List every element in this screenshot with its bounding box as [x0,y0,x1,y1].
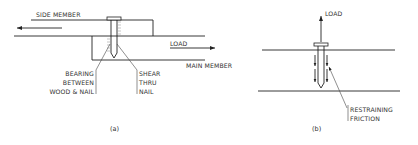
main-member-label: MAIN MEMBER [186,62,233,69]
shear-label-line-3: NAIL [139,88,154,95]
load-label-b: LOAD [325,10,343,17]
nail-a [107,17,121,58]
shear-leader [117,44,137,94]
figure-b: LOAD RESTRAINING FRICTION (b) [258,10,400,133]
caption-a: (a) [110,125,119,133]
friction-label-line-2: FRICTION [350,115,380,122]
friction-arrows [315,55,327,82]
bearing-label-line-3: WOOD & NAIL [49,88,94,95]
figure-a: SIDE MEMBER LOAD MAIN MEMBER BEARING BET… [14,11,233,133]
nail-joint-diagram: SIDE MEMBER LOAD MAIN MEMBER BEARING BET… [0,0,418,145]
bearing-label-line-1: BEARING [65,70,94,77]
bearing-label-line-2: BETWEEN [63,79,94,86]
side-member-label: SIDE MEMBER [36,11,81,18]
caption-b: (b) [312,125,321,133]
bearing-leader [96,44,110,94]
load-label-a: LOAD [170,40,188,47]
friction-leader [329,67,347,108]
shear-label-line-2: THRU [138,79,157,86]
friction-label-line-1: RESTRAINING [350,106,393,113]
shear-label-line-1: SHEAR [139,70,161,77]
